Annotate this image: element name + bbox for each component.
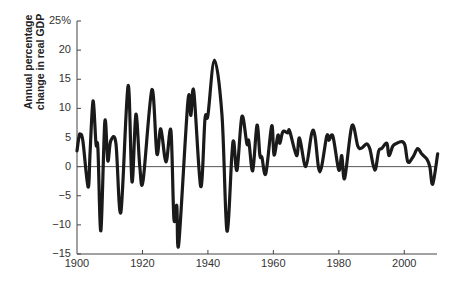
x-tick-label: 1940 [188, 257, 228, 269]
data-series-line [77, 60, 438, 247]
y-tick-label: 0 [31, 160, 71, 172]
x-tick-label: 1980 [319, 257, 359, 269]
x-tick-label: 1900 [57, 257, 97, 269]
y-tick-label: −10 [31, 218, 71, 230]
y-tick-label: 20 [31, 43, 71, 55]
y-tick-label: 5 [31, 131, 71, 143]
x-tick-label: 1960 [253, 257, 293, 269]
y-tick-label: 25% [31, 14, 71, 26]
y-tick-label: 15 [31, 72, 71, 84]
gdp-line-chart: Annual percentage change in real GDP −15… [0, 0, 466, 289]
x-tick-label: 2000 [384, 257, 424, 269]
y-tick-label: −5 [31, 189, 71, 201]
y-tick-label: 10 [31, 101, 71, 113]
x-tick-label: 1920 [122, 257, 162, 269]
gdp-growth-line [77, 60, 438, 247]
